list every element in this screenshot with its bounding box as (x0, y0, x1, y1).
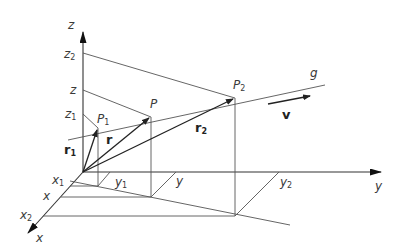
vector-r2-label: r2 (195, 120, 207, 136)
position-vector-diagram: z y x z2 z z1 y1 y y2 x1 x x2 P1 P P2 r1… (0, 0, 394, 249)
vector-v-arrow (268, 96, 310, 104)
y-floor-line (151, 172, 176, 197)
vector-r1-label: r1 (64, 142, 76, 158)
y-axis-label: y (374, 179, 383, 193)
z1-projection-line (83, 114, 98, 128)
y2-floor-line (235, 172, 279, 216)
vector-r-label: r (106, 132, 113, 147)
z-projection-line (83, 90, 151, 117)
y1-floor-line (98, 172, 110, 186)
z2-projection-line (83, 53, 235, 98)
x2-label: x2 (19, 208, 32, 223)
x-axis-label: x (35, 231, 44, 245)
line-g-label: g (310, 66, 318, 80)
point-p-label: P (150, 97, 158, 111)
point-p1-label: P1 (97, 112, 109, 127)
y2-label: y2 (279, 175, 292, 190)
x1-label: x1 (51, 173, 64, 188)
z1-label: z1 (64, 107, 76, 122)
z-label: z (69, 83, 77, 97)
z2-label: z2 (63, 47, 75, 62)
x-label: x (42, 189, 51, 203)
y-label: y (175, 174, 184, 188)
point-p2-label: P2 (233, 78, 245, 93)
y1-label: y1 (114, 175, 127, 190)
z-axis-label: z (67, 18, 75, 32)
vector-v-label: v (282, 107, 291, 122)
